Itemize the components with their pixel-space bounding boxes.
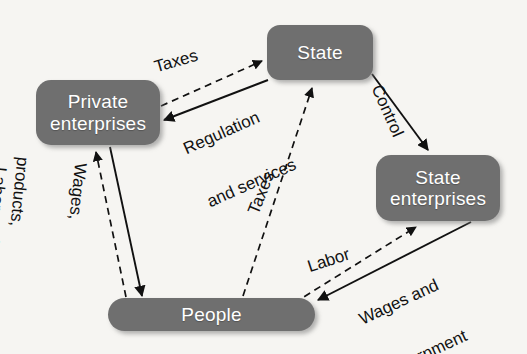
node-private-enterprises-label-line2: enterprises [50,113,146,134]
edge-label-wages-products-line2: products, [3,156,32,253]
node-state-enterprises-label-line2: enterprises [390,188,486,209]
node-state-label: State [297,42,342,63]
node-private-enterprises[interactable]: Private enterprises [36,80,160,145]
edge-label-regulation-line1: Regulation [181,102,276,158]
edge-label-wages-gov-line1: Wages and [356,274,445,329]
economic-flow-diagram: State Private enterprises State enterpri… [0,0,527,354]
node-people-label: People [181,304,241,325]
edge-label-wages-gov-line2: government [381,326,470,354]
node-state[interactable]: State [267,25,373,80]
edge-label-wages-products-line1: Wages, [61,162,90,259]
node-private-enterprises-label-line1: Private [50,91,146,112]
node-people[interactable]: People [108,298,315,331]
node-state-enterprises-label-line1: State [390,167,486,188]
node-state-enterprises[interactable]: State enterprises [376,155,500,221]
